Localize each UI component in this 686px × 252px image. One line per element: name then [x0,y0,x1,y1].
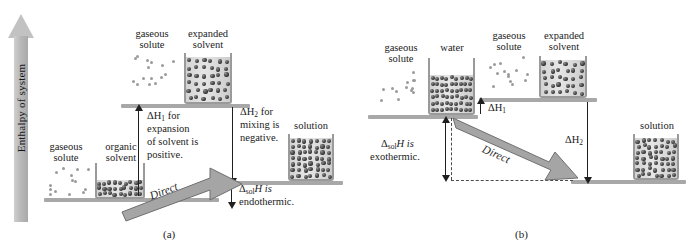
solute-particle [296,174,300,178]
solute-particle [573,63,577,67]
solute-particle [580,61,584,65]
solute-particle [435,94,439,98]
solute-particle [290,150,294,154]
gas-particle [68,193,71,196]
solute-particle [450,89,454,93]
solute-particle [460,96,464,100]
gas-particle [55,171,58,174]
gas-particle [492,85,495,88]
solute-particle [571,68,575,72]
solute-particle [187,73,191,77]
solute-particle [210,81,214,85]
gas-particle [136,83,139,86]
gas-particle [412,79,415,82]
solute-particle [435,77,439,81]
solute-particle [216,73,220,77]
solute-particle [187,58,191,62]
solute-particle [636,151,640,155]
gas-particle [76,168,79,171]
arrowhead-up-icon [477,97,485,104]
solute-particle [580,92,584,96]
gas-particle [507,75,510,78]
dh2-arrow-b [587,102,588,178]
solute-particle [297,162,301,166]
arrowhead-up-icon [135,104,143,111]
solute-particle [551,90,555,94]
solute-particle [672,150,676,154]
solute-particle [320,150,324,154]
solute-particle [550,62,554,66]
gas-particle [49,184,52,187]
solute-particle [302,139,306,143]
solute-particle [196,88,200,92]
solute-particle [194,95,198,99]
label-water-b: water [428,42,476,54]
solute-particle [665,145,669,149]
solute-particle [440,89,444,93]
solute-particle [667,151,671,155]
solute-particle [304,168,308,172]
solute-particle [665,157,669,161]
solute-particle [202,74,206,78]
solute-particle [641,172,645,176]
solute-particle [297,138,301,142]
solute-particle [454,102,458,106]
dh1-annotation-a-line3: of solvent is [147,136,198,149]
solute-particle [672,173,676,177]
solute-particle [223,88,227,92]
gas-particle [499,62,502,65]
gas-particle [391,87,394,90]
solute-particle [647,145,651,149]
enthalpy-axis-label: Enthalpy of system [15,33,27,183]
beaker-liquid [186,57,230,102]
solute-particle [673,143,677,147]
solute-particle [565,89,569,93]
solute-particle [573,91,577,95]
solute-particle [661,168,665,172]
dsol-arrow-b [445,122,446,176]
gas-particle [134,57,137,60]
solute-particle [225,60,229,64]
solute-particle [316,167,320,171]
gas-particle [84,188,87,191]
solute-particle [444,83,448,87]
solute-particle [113,180,117,184]
panel-a-caption: (a) [163,228,175,240]
solute-particle [543,76,547,80]
solute-particle [435,82,439,86]
solute-particle [550,75,554,79]
solute-particle [571,77,575,81]
solute-particle [468,102,472,106]
solute-particle [440,102,444,106]
solute-particle [308,174,312,178]
solute-particle [558,60,562,64]
gas-particle [511,83,514,86]
solute-particle [202,65,206,69]
solute-particle [653,168,657,172]
solute-particle [326,145,330,149]
solute-particle [541,61,545,65]
solute-particle [468,88,472,92]
solute-particle [551,69,555,73]
gas-particle [49,193,52,196]
dh2-annotation-a-line2: mixing is [240,119,279,132]
solute-particle [187,80,191,84]
solute-particle [571,84,575,88]
solute-particle [544,90,548,94]
solute-particle [218,59,222,63]
solute-particle [455,94,459,98]
solute-particle [297,168,301,172]
arrowhead-up-icon [442,116,450,123]
solute-particle [647,138,651,142]
gas-particle [160,76,163,79]
panel-a: Enthalpy of system gaseous solute organi… [0,0,343,252]
solute-particle [210,66,214,70]
solute-particle [441,94,445,98]
beaker-expanded-solvent-b [539,56,587,98]
label-gaseous-solute-b-line2: solute [375,53,427,65]
dh2-annotation-a-line3: negative. [240,132,278,145]
solute-particle [454,82,458,86]
solute-particle [654,145,658,149]
gas-particle [515,69,518,72]
direct-arrow-a [120,160,245,222]
